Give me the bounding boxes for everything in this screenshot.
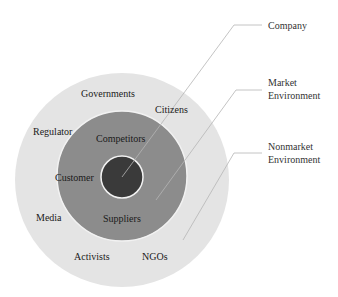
- callout-nonmarket-environment: Nonmarket Environment: [268, 140, 320, 166]
- callout-market-line2: Environment: [268, 89, 320, 102]
- label-citizens: Citizens: [155, 104, 188, 116]
- label-ngos: NGOs: [142, 251, 168, 263]
- callout-company: Company: [268, 19, 307, 32]
- callout-nonmarket-line2: Environment: [268, 153, 320, 166]
- label-customer: Customer: [55, 172, 94, 184]
- label-suppliers: Suppliers: [103, 213, 141, 225]
- callout-market-line1: Market: [268, 76, 320, 89]
- label-activists: Activists: [74, 251, 110, 263]
- label-media: Media: [36, 212, 62, 224]
- callout-company-line1: Company: [268, 19, 307, 32]
- label-governments: Governments: [81, 88, 135, 100]
- callout-nonmarket-line1: Nonmarket: [268, 140, 320, 153]
- label-regulator: Regulator: [33, 126, 72, 138]
- callout-market-environment: Market Environment: [268, 76, 320, 102]
- label-competitors: Competitors: [96, 133, 145, 145]
